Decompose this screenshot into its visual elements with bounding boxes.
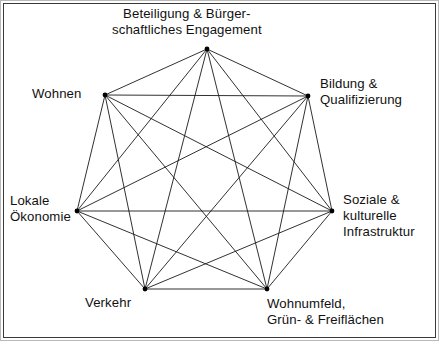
graph-edges bbox=[77, 49, 332, 289]
node-label-soziale-line3: Infrastruktur bbox=[343, 224, 415, 239]
node-label-bildung-line1: Bildung & bbox=[320, 76, 377, 91]
node-label-soziale-line2: kulturelle bbox=[343, 208, 397, 223]
node-label-lokale-line2: Ökonomie bbox=[10, 209, 71, 224]
graph-edge bbox=[77, 211, 145, 289]
graph-edge bbox=[105, 95, 308, 96]
node-label-bildung-line2: Qualifizierung bbox=[320, 92, 402, 107]
graph-edge bbox=[145, 49, 207, 289]
node-label-beteiligung: Beteiligung & Bürger-schaftliches Engage… bbox=[112, 6, 262, 38]
node-label-beteiligung-line1: Beteiligung & Bürger- bbox=[123, 6, 250, 21]
node-label-soziale-infrastruktur: Soziale &kulturelleInfrastruktur bbox=[343, 192, 415, 240]
graph-node-beteiligung[interactable] bbox=[205, 47, 210, 52]
node-label-bildung: Bildung &Qualifizierung bbox=[320, 76, 402, 108]
graph-node-bildung[interactable] bbox=[306, 94, 311, 99]
graph-edge bbox=[105, 49, 207, 95]
node-label-wohnumfeld: Wohnumfeld,Grün- & Freiflächen bbox=[267, 296, 384, 328]
graph-edge bbox=[105, 95, 332, 211]
graph-node-wohnen[interactable] bbox=[103, 93, 108, 98]
graph-edge bbox=[267, 211, 332, 289]
node-label-wohnen: Wohnen bbox=[32, 86, 81, 102]
node-label-wohnumfeld-line2: Grün- & Freiflächen bbox=[267, 312, 384, 327]
node-label-soziale-line1: Soziale & bbox=[343, 192, 400, 207]
graph-edge bbox=[207, 49, 308, 96]
graph-edge bbox=[145, 96, 308, 289]
node-label-verkehr: Verkehr bbox=[85, 295, 131, 311]
graph-edge bbox=[308, 96, 332, 211]
diagram-canvas: Beteiligung & Bürger-schaftliches Engage… bbox=[0, 0, 439, 341]
graph-node-wohnumfeld[interactable] bbox=[265, 287, 270, 292]
graph-edge bbox=[207, 49, 332, 211]
node-label-wohnen-line1: Wohnen bbox=[32, 86, 81, 101]
node-label-verkehr-line1: Verkehr bbox=[85, 295, 131, 310]
graph-node-lokale-oekonomie[interactable] bbox=[75, 209, 80, 214]
graph-node-verkehr[interactable] bbox=[143, 287, 148, 292]
graph-edge bbox=[105, 95, 145, 289]
graph-node-soziale-infrastruktur[interactable] bbox=[330, 209, 335, 214]
node-label-lokale-line1: Lokale bbox=[10, 193, 49, 208]
network-graph bbox=[0, 0, 439, 341]
graph-edge bbox=[267, 96, 308, 289]
graph-edge bbox=[77, 96, 308, 211]
node-label-lokale-oekonomie: LokaleÖkonomie bbox=[10, 193, 71, 225]
node-label-beteiligung-line2: schaftliches Engagement bbox=[112, 22, 262, 37]
node-label-wohnumfeld-line1: Wohnumfeld, bbox=[267, 296, 346, 311]
